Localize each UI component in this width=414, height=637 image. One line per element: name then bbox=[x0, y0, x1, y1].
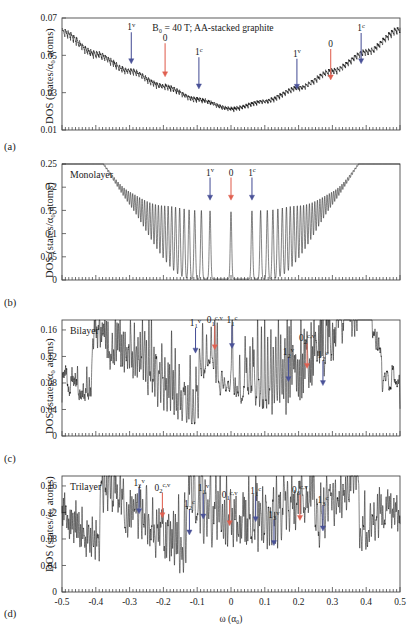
y-tick-label: 0.15 bbox=[41, 206, 58, 216]
y-tick-label: 0.25 bbox=[41, 159, 58, 169]
y-tick-label: 0 bbox=[52, 587, 57, 597]
figure-root: DOS (states/α₀ atoms) (a) 0.010.030.050.… bbox=[0, 0, 414, 637]
annotation-arrow: 0 bbox=[328, 39, 333, 80]
y-tick-label: 0.04 bbox=[41, 405, 58, 415]
annotation-label: 1v bbox=[206, 166, 215, 177]
x-tick-label: -0.3 bbox=[122, 597, 137, 607]
annotation-label: 11v bbox=[190, 317, 202, 330]
annotation-arrow: 0 bbox=[228, 168, 233, 201]
annotation-arrow: 1v bbox=[206, 166, 215, 200]
y-tick-label: 0.08 bbox=[41, 378, 58, 388]
y-tick-label: 0.16 bbox=[41, 325, 58, 335]
x-tick-label: -0.5 bbox=[55, 597, 70, 607]
y-tick-label: 0.01 bbox=[41, 125, 58, 135]
x-axis-label: ω (α₀) bbox=[220, 614, 243, 625]
annotation-arrow: 1c bbox=[195, 46, 203, 89]
y-tick-label: 0.07 bbox=[41, 13, 58, 23]
annotation-arrow: 12v bbox=[283, 346, 295, 382]
annotation-arrow: 0 bbox=[162, 33, 167, 76]
annotation-arrow: 11c bbox=[227, 314, 238, 348]
annotation-arrow: 12c bbox=[184, 498, 195, 535]
y-tick-label: 0.08 bbox=[41, 534, 58, 544]
annotation-label: 11c bbox=[227, 314, 238, 327]
x-tick-label: -0.4 bbox=[88, 597, 103, 607]
annotation-arrow: 1c bbox=[248, 166, 256, 200]
dos-curve bbox=[62, 27, 400, 112]
annotation-label: 11v bbox=[198, 482, 210, 495]
annotation-label: 0 bbox=[229, 168, 234, 178]
annotation-label: 12c bbox=[317, 349, 328, 362]
y-tick-label: 0.1 bbox=[45, 229, 57, 239]
panel-a-title: B₀ = 40 T; AA-stacked graphite bbox=[152, 22, 273, 33]
annotation-label: 02c,v bbox=[154, 481, 171, 494]
annotation-arrow: 1v bbox=[293, 47, 302, 89]
panel-b-plot: 00.050.10.150.20.25Monolayer1v01c bbox=[0, 152, 414, 308]
panel-d-plot: 00.040.080.120.16-0.5-0.4-0.3-0.2-0.100.… bbox=[0, 464, 414, 637]
panel-c-plot: 00.040.080.120.16Bilayer11v01c,v11c12v02… bbox=[0, 308, 414, 464]
y-tick-label: 0.12 bbox=[41, 508, 58, 518]
y-tick-label: 0 bbox=[52, 275, 57, 285]
annotation-arrow: 13c bbox=[317, 494, 328, 531]
x-tick-label: 0.1 bbox=[259, 597, 271, 607]
y-tick-label: 0.05 bbox=[41, 252, 58, 262]
annotation-arrow: 1v bbox=[127, 21, 136, 64]
annotation-label: 12c bbox=[184, 498, 195, 511]
annotation-label: 12v bbox=[133, 477, 145, 490]
panel-b: DOS (states/α₀ atoms) (b) 00.050.10.150.… bbox=[0, 152, 414, 308]
y-tick-label: 0 bbox=[52, 431, 57, 441]
dos-curve bbox=[62, 320, 400, 424]
annotation-label: 1c bbox=[248, 166, 256, 177]
annotation-label: 0 bbox=[328, 39, 333, 49]
y-tick-label: 0.2 bbox=[45, 182, 57, 192]
panel-b-inset-label: Monolayer bbox=[70, 169, 114, 180]
annotation-arrow: 1c bbox=[357, 22, 365, 64]
y-tick-label: 0.16 bbox=[41, 481, 58, 491]
annotation-label: 13v bbox=[268, 509, 280, 522]
panel-a: DOS (states/α₀ atoms) (a) 0.010.030.050.… bbox=[0, 0, 414, 152]
panel-d-inset-label: Trilayer bbox=[70, 481, 102, 492]
annotation-label: 1c bbox=[357, 22, 365, 33]
annotation-label: 0 bbox=[163, 33, 168, 43]
annotation-label: 13c bbox=[317, 494, 328, 507]
x-tick-label: 0.5 bbox=[394, 597, 406, 607]
annotation-arrow: 12c bbox=[317, 349, 328, 385]
x-tick-label: -0.1 bbox=[190, 597, 205, 607]
x-tick-label: 0.4 bbox=[360, 597, 372, 607]
annotation-label: 1v bbox=[127, 21, 136, 32]
annotation-arrow: 11v bbox=[190, 317, 202, 353]
y-tick-label: 0.12 bbox=[41, 352, 58, 362]
annotation-label: 1c bbox=[195, 46, 203, 57]
annotation-label: 1v bbox=[293, 47, 302, 58]
x-tick-label: -0.2 bbox=[156, 597, 171, 607]
y-tick-label: 0.05 bbox=[41, 51, 58, 61]
panel-a-plot: 0.010.030.050.07B₀ = 40 T; AA-stacked gr… bbox=[0, 0, 414, 152]
x-tick-label: 0.3 bbox=[327, 597, 339, 607]
y-tick-label: 0.03 bbox=[41, 88, 58, 98]
x-tick-label: 0.2 bbox=[293, 597, 305, 607]
panel-c-inset-label: Bilayer bbox=[70, 325, 100, 336]
annotation-arrow: 01c,v bbox=[207, 314, 224, 350]
annotation-arrow: 11c bbox=[250, 485, 261, 522]
y-tick-label: 0.04 bbox=[41, 561, 58, 571]
panel-d: DOS (states/α₀ atoms) (d) 00.040.080.120… bbox=[0, 464, 414, 637]
panel-c: DOS (states/α₀ atoms) (c) 00.040.080.120… bbox=[0, 308, 414, 464]
x-tick-label: 0 bbox=[229, 597, 234, 607]
